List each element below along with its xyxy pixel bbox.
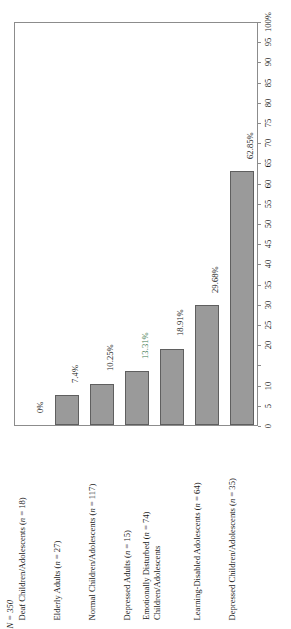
tick-label-5: 5 — [264, 404, 273, 408]
tick-mark-95 — [258, 42, 261, 43]
bar-value-label-learning-disabled-adolescents: 29.68% — [211, 266, 220, 293]
tick-mark-35 — [258, 285, 261, 286]
tick-label-40: 40 — [264, 260, 273, 269]
category-label-depressed-children-adolescents: Depressed Children/Adolescents (n = 35) — [226, 478, 237, 620]
tick-mark-10 — [258, 386, 261, 387]
tick-mark-20 — [258, 345, 261, 346]
tick-mark-15 — [258, 365, 261, 366]
bar-value-label-emotionally-disturbed-children-adolescents: 18.91% — [176, 309, 185, 336]
bar-normal-children-adolescents: 10.25% — [90, 23, 114, 425]
bar-emotionally-disturbed-children-adolescents: 18.91% — [160, 23, 184, 425]
category-label-emotionally-disturbed-children-adolescents: Emotionally Disturbed (n = 74)Children/A… — [141, 512, 162, 620]
tick-mark-45 — [258, 244, 261, 245]
tick-label-55: 55 — [264, 200, 273, 209]
tick-label-90: 90 — [264, 58, 273, 67]
tick-label-70: 70 — [264, 139, 273, 148]
category-label-line: Children/Adolescents — [151, 512, 162, 620]
tick-label-60: 60 — [264, 179, 273, 188]
category-label-line: Normal Children/Adolescents (n = 117) — [87, 483, 98, 620]
tick-label-20: 20 — [264, 341, 273, 350]
bars-area: 0%7.4%10.25%13.31%18.91%29.68%62.85% — [15, 23, 257, 425]
category-label-line: Emotionally Disturbed (n = 74) — [141, 512, 152, 620]
tick-mark-100 — [258, 22, 261, 23]
tick-label-95: 95 — [264, 38, 273, 47]
bar-rect-elderly-adults — [55, 395, 79, 425]
tick-label-30: 30 — [264, 301, 273, 310]
category-label-line: Elderly Adults (n = 27) — [52, 540, 63, 620]
bar-value-label-elderly-adults: 7.4% — [72, 365, 81, 383]
value-axis: 051020253035404550556065707580859095100% — [258, 22, 291, 426]
tick-mark-90 — [258, 62, 261, 63]
tick-mark-60 — [258, 184, 261, 185]
tick-label-0: 0 — [264, 424, 273, 428]
category-label-line: Depressed Adults (n = 15) — [122, 530, 133, 620]
category-label-deaf-children-adolescents: Deaf Children/Adolescents (n = 18) — [17, 497, 28, 620]
tick-label-25: 25 — [264, 321, 273, 330]
tick-mark-25 — [258, 325, 261, 326]
category-label-elderly-adults: Elderly Adults (n = 27) — [52, 540, 63, 620]
category-label-learning-disabled-adolescents: Learning-Disabled Adolescents (n = 64) — [191, 482, 202, 620]
tick-mark-80 — [258, 103, 261, 104]
sample-size-annotation: N = 350 — [7, 600, 16, 629]
tick-mark-75 — [258, 123, 261, 124]
category-axis: Deaf Children/Adolescents (n = 18)Elderl… — [14, 430, 258, 624]
bar-value-label-depressed-adults: 13.31% — [141, 332, 150, 359]
bar-depressed-adults: 13.31% — [125, 23, 149, 425]
plot-frame: 0%7.4%10.25%13.31%18.91%29.68%62.85% — [14, 22, 258, 426]
bar-rect-learning-disabled-adolescents — [195, 305, 219, 425]
bar-rect-emotionally-disturbed-children-adolescents — [160, 349, 184, 425]
category-label-line: Depressed Children/Adolescents (n = 35) — [226, 478, 237, 620]
bar-value-label-depressed-children-adolescents: 62.85% — [246, 132, 255, 159]
bar-depressed-children-adolescents: 62.85% — [230, 23, 254, 425]
tick-mark-55 — [258, 204, 261, 205]
tick-label-75: 75 — [264, 119, 273, 128]
tick-mark-0 — [258, 426, 261, 427]
tick-label-45: 45 — [264, 240, 273, 249]
category-label-normal-children-adolescents: Normal Children/Adolescents (n = 117) — [87, 483, 98, 620]
tick-mark-65 — [258, 163, 261, 164]
tick-label-65: 65 — [264, 159, 273, 168]
tick-label-50: 50 — [264, 220, 273, 229]
tick-mark-5 — [258, 406, 261, 407]
bar-rect-normal-children-adolescents — [90, 384, 114, 425]
category-label-line: Learning-Disabled Adolescents (n = 64) — [191, 482, 202, 620]
tick-label-35: 35 — [264, 280, 273, 289]
bar-rect-depressed-children-adolescents — [230, 171, 254, 425]
tick-label-10: 10 — [264, 381, 273, 390]
tick-mark-85 — [258, 83, 261, 84]
bar-deaf-children-adolescents: 0% — [20, 23, 44, 425]
tick-mark-30 — [258, 305, 261, 306]
tick-mark-40 — [258, 264, 261, 265]
tick-mark-70 — [258, 143, 261, 144]
category-label-depressed-adults: Depressed Adults (n = 15) — [122, 530, 133, 620]
tick-label-85: 85 — [264, 78, 273, 87]
category-label-line: Deaf Children/Adolescents (n = 18) — [17, 497, 28, 620]
tick-mark-50 — [258, 224, 261, 225]
bar-value-label-deaf-children-adolescents: 0% — [37, 401, 46, 413]
bar-elderly-adults: 7.4% — [55, 23, 79, 425]
tick-label-100: 100% — [264, 12, 273, 32]
bar-learning-disabled-adolescents: 29.68% — [195, 23, 219, 425]
bar-value-label-normal-children-adolescents: 10.25% — [106, 344, 115, 371]
bar-rect-depressed-adults — [125, 371, 149, 425]
tick-label-80: 80 — [264, 99, 273, 108]
